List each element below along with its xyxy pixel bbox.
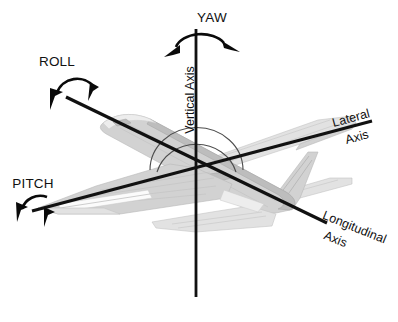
vertical-axis-label: Vertical Axis — [183, 66, 197, 133]
aircraft-axes-diagram: YAW ROLL PITCH Vertical Axis Lateral Axi… — [0, 0, 398, 322]
roll-label: ROLL — [39, 54, 75, 69]
diagram-canvas: YAW ROLL PITCH Vertical Axis Lateral Axi… — [0, 0, 398, 322]
roll-rotation-arrow — [50, 79, 99, 110]
pitch-label: PITCH — [12, 176, 54, 191]
yaw-rotation-arrow — [164, 34, 240, 57]
yaw-label: YAW — [197, 10, 227, 25]
aircraft-left-wing — [38, 164, 232, 214]
longitudinal-axis-label-line2: Axis — [322, 228, 349, 250]
